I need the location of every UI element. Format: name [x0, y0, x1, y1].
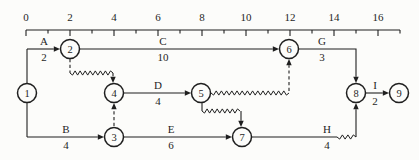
float-5-6 [211, 91, 289, 95]
activity-A-duration: 2 [41, 51, 47, 63]
activity-D-duration: 4 [155, 95, 161, 107]
node-1-number: 1 [24, 88, 29, 99]
activity-E-line-arrowhead [226, 134, 232, 139]
activity-B-duration: 4 [63, 139, 69, 151]
float-2-4 [70, 71, 113, 75]
node-8-number: 8 [353, 88, 358, 99]
node-3-number: 3 [111, 132, 116, 143]
activity-D-name: D [154, 79, 162, 91]
node-5-number: 5 [198, 88, 203, 99]
ruler-label: 12 [285, 11, 296, 23]
pert-network-figure: 0246810121416A2C10G3D4I2B4E6H4123456789 [0, 0, 419, 160]
riser-H-to-8-arrowhead [353, 103, 358, 109]
network-diagram-svg: 0246810121416A2C10G3D4I2B4E6H4123456789 [0, 0, 419, 160]
ruler-label: 10 [241, 11, 253, 23]
activity-B-name: B [62, 123, 69, 135]
activity-H-duration: 4 [324, 139, 330, 151]
ruler-label: 8 [199, 11, 205, 23]
ruler-label: 2 [67, 11, 73, 23]
activity-C-duration: 10 [158, 51, 170, 63]
ruler-label: 14 [329, 11, 341, 23]
riser-5-6-arrowhead [286, 59, 291, 65]
activity-I-duration: 2 [372, 95, 378, 107]
dummy-3-4-arrowhead [111, 103, 116, 109]
activity-I-name: I [373, 79, 377, 91]
activity-E-name: E [168, 123, 175, 135]
activity-G-line-arrowhead [353, 77, 358, 83]
activity-A-line-arrowhead [54, 46, 60, 51]
activity-D-line-arrowhead [185, 90, 191, 95]
ruler-label: 0 [23, 11, 29, 23]
drop-into-4-arrowhead [110, 77, 115, 83]
activity-C-line-arrowhead [273, 46, 279, 51]
node-6-number: 6 [286, 44, 291, 55]
float-H [337, 135, 356, 139]
activity-A-name: A [40, 35, 48, 47]
activity-G-duration: 3 [319, 51, 325, 63]
activity-G-line [299, 49, 356, 77]
node-9-number: 9 [396, 88, 401, 99]
float-5-7 [202, 109, 240, 113]
ruler-label: 4 [111, 11, 117, 23]
drop-into-7-arrowhead [238, 121, 243, 127]
activity-G-name: G [318, 35, 326, 47]
ruler-label: 6 [155, 11, 161, 23]
activity-I-line-arrowhead [383, 90, 389, 95]
node-4-number: 4 [111, 88, 117, 99]
ruler-label: 16 [373, 11, 385, 23]
node-2-number: 2 [67, 44, 72, 55]
activity-E-duration: 6 [168, 139, 174, 151]
activity-H-name: H [323, 123, 331, 135]
activity-C-name: C [159, 35, 166, 47]
node-7-number: 7 [239, 132, 244, 143]
activity-B-line-arrowhead [98, 134, 104, 139]
